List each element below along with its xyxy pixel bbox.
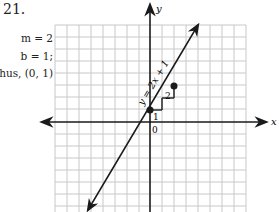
origin-label: 0: [152, 125, 158, 135]
point-y-intercept: [147, 107, 154, 114]
coordinate-graph: x y 1 2 0 y = 2x + 1: [0, 0, 279, 212]
rise-label: 2: [165, 91, 171, 101]
point-second: [171, 83, 178, 90]
x-axis-label: x: [271, 116, 277, 127]
run-label: 1: [153, 112, 159, 122]
y-axis-label: y: [155, 3, 162, 14]
